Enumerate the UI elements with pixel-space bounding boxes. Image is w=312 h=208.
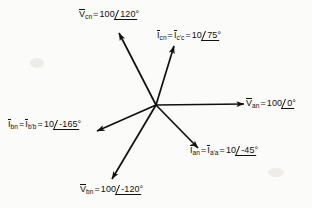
ibn-angle: -165° bbox=[59, 120, 81, 129]
angle-bracket-icon: 120° bbox=[114, 10, 141, 20]
angle-bracket-icon: -120° bbox=[115, 185, 145, 195]
equals-sign: = bbox=[37, 119, 44, 129]
vbn-magnitude: 100 bbox=[101, 184, 116, 194]
vcn-magnitude: 100 bbox=[99, 9, 114, 19]
ibn-alias-subscript: b'b bbox=[28, 123, 37, 130]
ibn-subscript: bn bbox=[11, 123, 18, 130]
phasor-label-vbn: Vbn=100-120° bbox=[80, 184, 143, 196]
ian-subscript: an bbox=[193, 149, 200, 156]
ibn-alias-symbol: I bbox=[25, 119, 28, 129]
ian-alias-subscript: a'a bbox=[210, 149, 219, 156]
phasor-arrow-vbn bbox=[112, 105, 156, 179]
phasor-label-ibn: Ibn=Ib'b=10-165° bbox=[8, 119, 81, 131]
phasor-arrow-ian bbox=[156, 105, 198, 148]
phasor-label-van: Van=1000° bbox=[246, 98, 296, 110]
phasor-arrow-van bbox=[156, 104, 244, 105]
icn-angle: 75° bbox=[207, 31, 221, 40]
equals-sign: = bbox=[219, 145, 226, 155]
equals-sign: = bbox=[200, 145, 207, 155]
phasor-label-vcn: Vcn=100120° bbox=[79, 9, 139, 21]
ian-angle: -45° bbox=[241, 146, 258, 155]
vcn-symbol: V bbox=[79, 9, 85, 19]
ibn-symbol: I bbox=[8, 119, 11, 129]
vcn-angle: 120° bbox=[120, 10, 139, 19]
icn-symbol: I bbox=[157, 30, 160, 40]
phasor-arrow-icn bbox=[156, 46, 174, 105]
phasor-arrow-vcn bbox=[119, 33, 156, 105]
vbn-symbol: V bbox=[80, 184, 86, 194]
vbn-angle: -120° bbox=[121, 185, 143, 194]
angle-bracket-icon: 75° bbox=[201, 31, 223, 41]
phasor-label-ian: Ian=Ia'a=10-45° bbox=[190, 145, 258, 157]
ibn-magnitude: 10 bbox=[44, 119, 54, 129]
equals-sign: = bbox=[93, 184, 100, 194]
equals-sign: = bbox=[18, 119, 25, 129]
phasor-diagram-canvas: Vcn=100120° Icn=Ic'c=1075° Van=1000° Ian… bbox=[0, 0, 312, 208]
van-magnitude: 100 bbox=[267, 98, 282, 108]
icn-magnitude: 10 bbox=[192, 30, 202, 40]
van-angle: 0° bbox=[287, 99, 296, 108]
angle-bracket-icon: -165° bbox=[53, 120, 83, 130]
ian-magnitude: 10 bbox=[226, 145, 236, 155]
equals-sign: = bbox=[167, 30, 174, 40]
equals-sign: = bbox=[184, 30, 191, 40]
angle-bracket-icon: 0° bbox=[281, 99, 298, 109]
icn-subscript: cn bbox=[160, 34, 167, 41]
van-symbol: V bbox=[246, 98, 252, 108]
ian-alias-symbol: I bbox=[207, 145, 210, 155]
icn-alias-symbol: I bbox=[174, 30, 177, 40]
phasor-arrow-ibn bbox=[97, 105, 156, 131]
phasor-label-icn: Icn=Ic'c=1075° bbox=[157, 30, 221, 42]
angle-bracket-icon: -45° bbox=[235, 146, 260, 156]
ian-symbol: I bbox=[190, 145, 193, 155]
equals-sign: = bbox=[259, 98, 266, 108]
